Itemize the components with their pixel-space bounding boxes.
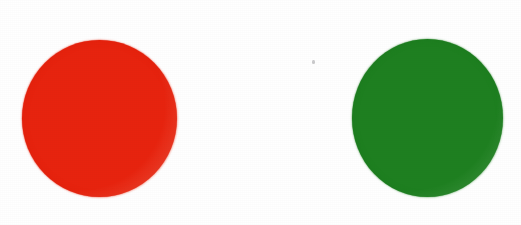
red-circle-label: Red circle xyxy=(21,39,22,40)
green-circle: Green circle xyxy=(352,39,503,197)
scan-speck xyxy=(312,60,315,64)
image-canvas: Red circle Green circle xyxy=(0,0,521,225)
red-circle: Red circle xyxy=(22,40,177,197)
green-circle-label: Green circle xyxy=(351,38,352,39)
